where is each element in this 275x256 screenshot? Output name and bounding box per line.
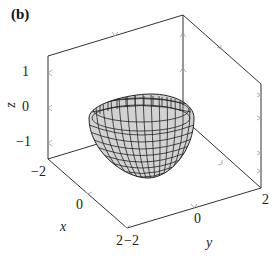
y-tick-2: 2 — [262, 193, 269, 207]
y-tick-0: 0 — [194, 212, 201, 226]
x-tick-2: 2 — [116, 234, 123, 248]
bowl-surface — [89, 94, 194, 180]
y-tick-neg2: −2 — [124, 234, 139, 248]
z-tick-neg1: −1 — [16, 135, 31, 149]
panel-label: (b) — [11, 6, 29, 23]
x-tick-0: 0 — [76, 198, 83, 212]
x-tick-neg2: −2 — [31, 165, 46, 179]
z-axis-label: z — [4, 102, 18, 107]
z-tick-1: 1 — [22, 65, 29, 79]
x-axis-label: x — [60, 220, 66, 234]
z-tick-0: 0 — [22, 100, 29, 114]
y-axis-label: y — [206, 236, 212, 250]
surface-plot — [0, 0, 275, 256]
